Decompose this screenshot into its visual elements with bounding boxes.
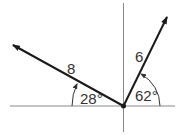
vector-diagram: 8 28° 6 62° xyxy=(0,0,184,135)
origin-point xyxy=(121,104,126,109)
angle-62-label: 62° xyxy=(135,87,158,104)
vector-6-magnitude-label: 6 xyxy=(135,48,143,65)
angle-arc-28 xyxy=(72,84,77,106)
angle-28-label: 28° xyxy=(80,90,103,107)
vector-8-magnitude-label: 8 xyxy=(67,60,75,77)
